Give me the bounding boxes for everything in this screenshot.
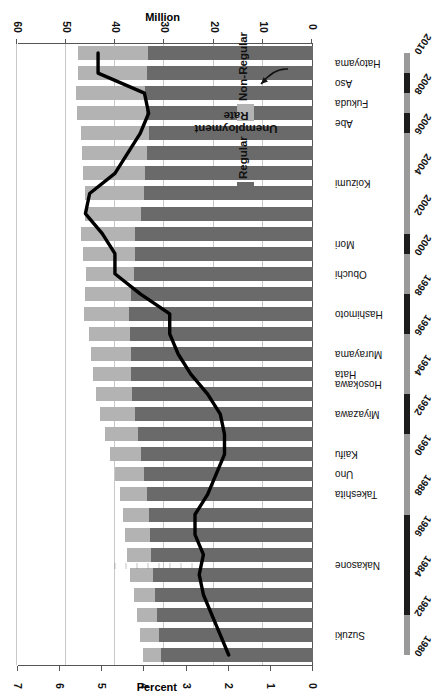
year-tick-label: 2006 xyxy=(412,112,434,137)
million-tick-label: 10 xyxy=(258,17,270,37)
pm-name-label: Takeshita xyxy=(335,489,377,500)
percent-axis-tick xyxy=(59,666,60,671)
year-tick-label: 1992 xyxy=(412,393,434,418)
percent-axis-tick xyxy=(186,666,187,671)
annotation-line-1: Unemployment xyxy=(194,123,277,135)
pm-name-label: Obuchi xyxy=(335,269,367,280)
percent-tick-label: 1 xyxy=(265,676,277,695)
pm-term-segment xyxy=(404,113,410,133)
pm-name-label: Aso xyxy=(335,78,352,89)
prime-minister-term-rail xyxy=(404,43,410,665)
year-tick-label: 2008 xyxy=(412,72,434,97)
million-tick-label: 20 xyxy=(209,17,221,37)
pm-term-segment xyxy=(404,294,410,334)
percent-axis-tick xyxy=(270,666,271,671)
annotation-line-2: Rate xyxy=(224,110,249,122)
pm-term-segment xyxy=(404,93,410,113)
pm-term-segment xyxy=(404,73,410,93)
pm-name-label: Hatoyama xyxy=(335,58,381,69)
gridline xyxy=(16,44,17,665)
pm-term-segment xyxy=(404,394,410,434)
pm-term-segment xyxy=(404,515,410,615)
pm-term-segment xyxy=(404,234,410,254)
year-tick-label: 2000 xyxy=(412,233,434,258)
year-tick-label: 1996 xyxy=(412,313,434,338)
year-tick-label: 1984 xyxy=(412,554,434,579)
pm-name-label: Fukuda xyxy=(335,98,368,109)
percent-tick-label: 3 xyxy=(181,676,193,695)
pm-term-segment xyxy=(404,615,410,655)
percent-tick-label: 2 xyxy=(223,676,235,695)
percent-tick-label: 7 xyxy=(12,676,24,695)
legend-swatch xyxy=(237,182,254,199)
pm-term-segment xyxy=(404,434,410,474)
year-tick-label: 1982 xyxy=(412,594,434,619)
pm-name-label: Mori xyxy=(335,239,354,250)
axis-tick xyxy=(16,39,17,44)
percent-axis-tick xyxy=(17,666,18,671)
year-tick-label: 1990 xyxy=(412,433,434,458)
pm-term-segment xyxy=(404,254,410,294)
million-tick-label: 60 xyxy=(12,17,24,37)
percent-axis-tick xyxy=(228,666,229,671)
million-axis-title: Million xyxy=(145,11,180,23)
year-tick-label: 1998 xyxy=(412,273,434,298)
pm-name-label: Koizumi xyxy=(335,178,371,189)
pm-term-segment xyxy=(404,334,410,374)
pm-name-label: Nakasone xyxy=(335,560,380,571)
percent-tick-label: 5 xyxy=(96,676,108,695)
pm-name-label: Hashimoto xyxy=(335,309,383,320)
legend-item: Regular xyxy=(227,125,263,199)
annotation-arrow-icon xyxy=(231,59,291,99)
pm-name-label: Miyazawa xyxy=(335,409,379,420)
pm-name-label: Abe xyxy=(335,118,353,129)
pm-name-label: Murayama xyxy=(335,349,382,360)
year-and-pm-axis: SuzukiNakasoneTakeshitaUnoKaifuMiyazawaH… xyxy=(313,43,423,665)
year-tick-label: 2002 xyxy=(412,193,434,218)
year-tick-label: 1980 xyxy=(412,634,434,659)
percent-tick-label: 0 xyxy=(307,676,319,695)
pm-name-label: Kaifu xyxy=(335,449,358,460)
unemployment-rate-line xyxy=(18,43,313,665)
percent-tick-label: 6 xyxy=(54,676,66,695)
unemployment-rate-annotation: Unemployment Rate xyxy=(188,109,284,135)
million-tick-label: 40 xyxy=(110,17,122,37)
pm-term-segment xyxy=(404,53,410,73)
year-tick-label: 1994 xyxy=(412,353,434,378)
scan-artifact xyxy=(107,563,193,569)
year-tick-label: 1986 xyxy=(412,514,434,539)
legend-label: Regular xyxy=(237,136,249,179)
year-tick-label: 2004 xyxy=(412,152,434,177)
year-tick-label: 2010 xyxy=(412,32,434,57)
percent-axis-title: Percent xyxy=(137,681,177,693)
percent-axis-tick xyxy=(101,666,102,671)
year-tick-label: 1988 xyxy=(412,473,434,498)
percent-axis-tick xyxy=(312,666,313,671)
pm-name-label: Hata xyxy=(335,369,356,380)
pm-name-label: Suzuki xyxy=(335,630,365,641)
million-tick-label: 0 xyxy=(307,17,319,37)
pm-term-segment xyxy=(404,474,410,514)
pm-name-label: Uno xyxy=(335,469,353,480)
pm-term-segment xyxy=(404,374,410,394)
million-tick-label: 50 xyxy=(61,17,73,37)
percent-axis-tick xyxy=(143,666,144,671)
pm-term-segment xyxy=(404,133,410,233)
pm-name-label: Hosokawa xyxy=(335,379,382,390)
